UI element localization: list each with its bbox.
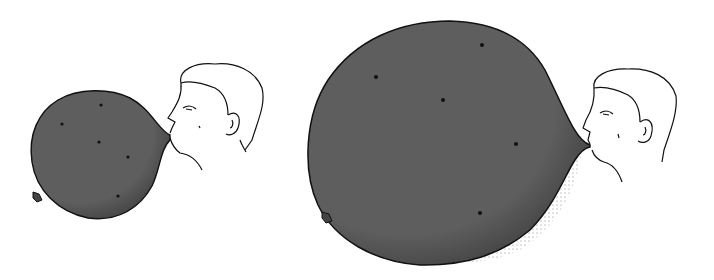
small-man-head	[168, 64, 263, 170]
large-balloon	[308, 21, 590, 265]
balloon-expansion-illustration	[0, 0, 714, 280]
balloon-knot	[33, 192, 42, 202]
small-balloon-body	[31, 91, 170, 219]
large-balloon-body	[308, 21, 590, 265]
small-balloon	[31, 91, 170, 219]
large-man-head	[583, 69, 676, 182]
